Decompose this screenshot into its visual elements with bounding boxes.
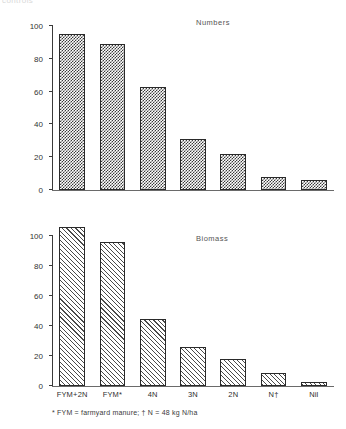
y-tick-label: 80 — [34, 262, 49, 271]
bar[interactable] — [100, 44, 126, 190]
bar-group-biomass — [52, 222, 334, 386]
y-tick-label: 60 — [34, 292, 49, 301]
figure-root: controls Numbers Numbers/m² 020406080100… — [0, 0, 346, 429]
x-axis-label: FYM* — [92, 390, 132, 399]
bar[interactable] — [220, 154, 246, 190]
bar-slot — [173, 222, 213, 386]
bar[interactable] — [301, 382, 327, 387]
panel-biomass: Biomass Weight (g/m²) 020406080100 FYM+2… — [0, 222, 346, 394]
y-tick-label: 20 — [34, 352, 49, 361]
bar-slot — [133, 26, 173, 190]
plot-area-biomass — [52, 222, 334, 387]
y-tick-label: 0 — [39, 186, 49, 195]
bar[interactable] — [180, 347, 206, 386]
x-axis-label: 2N — [213, 390, 253, 399]
footnote: * FYM = farmyard manure; † N = 48 kg N/h… — [52, 409, 198, 416]
bar-slot — [294, 222, 334, 386]
bar[interactable] — [261, 373, 287, 387]
clipped-caption: controls — [2, 0, 33, 5]
bar-slot — [213, 222, 253, 386]
bar-slot — [173, 26, 213, 190]
bar[interactable] — [59, 227, 85, 386]
x-axis-label: N† — [253, 390, 293, 399]
bar[interactable] — [301, 180, 327, 190]
bar-slot — [253, 222, 293, 386]
x-axis-label: 3N — [173, 390, 213, 399]
bar-slot — [253, 26, 293, 190]
y-tick-label: 100 — [30, 232, 49, 241]
y-tick-label: 80 — [34, 54, 49, 63]
x-axis-labels: FYM+2NFYM*4N3N2NN†Nil — [52, 390, 334, 399]
y-tick-label: 0 — [39, 382, 49, 391]
bar-slot — [52, 222, 92, 386]
bar-slot — [213, 26, 253, 190]
bar[interactable] — [180, 139, 206, 190]
bar[interactable] — [140, 87, 166, 190]
y-tick-label: 20 — [34, 153, 49, 162]
bar-slot — [92, 26, 132, 190]
x-axis-label: 4N — [133, 390, 173, 399]
y-tick-label: 40 — [34, 322, 49, 331]
bar-group-numbers — [52, 26, 334, 190]
bar[interactable] — [100, 242, 126, 386]
bar[interactable] — [261, 177, 287, 190]
bar-slot — [52, 26, 92, 190]
y-tick-label: 60 — [34, 87, 49, 96]
y-tick-label: 100 — [30, 22, 49, 31]
x-axis-label: FYM+2N — [52, 390, 92, 399]
x-axis-label: Nil — [294, 390, 334, 399]
bar-slot — [92, 222, 132, 386]
bar[interactable] — [140, 319, 166, 387]
bar-slot — [133, 222, 173, 386]
bar[interactable] — [220, 359, 246, 386]
plot-area-numbers — [52, 26, 334, 191]
bar[interactable] — [59, 34, 85, 190]
y-tick-label: 40 — [34, 120, 49, 129]
bar-slot — [294, 26, 334, 190]
panel-numbers: Numbers Numbers/m² 020406080100 — [0, 14, 346, 206]
